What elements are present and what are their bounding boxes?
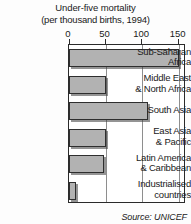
x-tick-label-150: 150: [170, 28, 186, 39]
x-tick-label-0: 0: [65, 28, 70, 39]
category-label-2: South Asia: [125, 105, 191, 116]
category-label-5: Industrialisedcountries: [125, 179, 191, 200]
bar-5: [69, 182, 76, 200]
bar-4: [69, 155, 104, 173]
category-label-0-line-1: Africa: [125, 57, 191, 68]
chart-subtitle: (per thousand births, 1994): [0, 14, 191, 26]
category-label-5-line-1: countries: [125, 190, 191, 201]
x-tick-mark-100: [141, 39, 142, 44]
chart-figure: Under-five mortality (per thousand birth…: [0, 0, 191, 224]
bar-1: [69, 76, 106, 94]
chart-title-block: Under-five mortality (per thousand birth…: [0, 2, 191, 26]
category-label-2-line-0: South Asia: [125, 105, 191, 116]
x-tick-mark-0: [69, 39, 70, 44]
gridline-50: [106, 45, 107, 202]
category-label-4-line-1: & Caribbean: [125, 163, 191, 174]
category-label-4: Latin America& Caribbean: [125, 153, 191, 174]
category-label-3: East Asia& Pacific: [125, 126, 191, 147]
x-axis-tick-labels: 050100150: [0, 28, 191, 40]
category-label-1-line-1: & North Africa: [125, 84, 191, 95]
source-note: Source: UNICEF: [121, 212, 187, 222]
category-label-1: Middle East& North Africa: [125, 73, 191, 94]
chart-title: Under-five mortality: [0, 2, 191, 14]
x-tick-mark-150: [178, 39, 179, 44]
category-label-0: Sub-SaharanAfrica: [125, 47, 191, 68]
x-tick-label-50: 50: [99, 28, 110, 39]
category-label-3-line-1: & Pacific: [125, 137, 191, 148]
x-tick-mark-50: [105, 39, 106, 44]
bar-3: [69, 129, 106, 147]
x-tick-label-100: 100: [133, 28, 149, 39]
